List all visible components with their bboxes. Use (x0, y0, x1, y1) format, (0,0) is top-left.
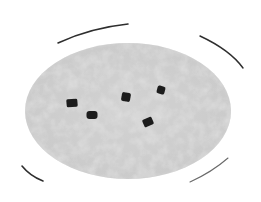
agar-surface (20, 40, 240, 185)
particle-1 (66, 99, 78, 108)
petri-dish-photo (0, 0, 261, 202)
particle-3 (121, 92, 131, 102)
particle-2 (87, 111, 98, 119)
petri-dish-illustration (0, 0, 261, 202)
